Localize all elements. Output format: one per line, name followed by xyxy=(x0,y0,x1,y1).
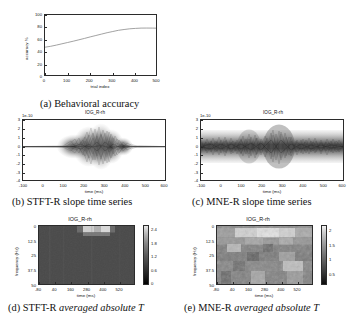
xtick-label: 40 xyxy=(230,287,235,292)
xtick-label: 300 xyxy=(108,78,115,83)
colorbar-tick-label: 1.5 xyxy=(329,243,335,248)
colorbar-tick-label: 1.8 xyxy=(151,241,157,246)
ytick-label: 37.5 xyxy=(196,268,214,273)
mner-trace-overlay xyxy=(201,120,344,181)
colorbar-tick-label: 2 xyxy=(329,228,331,233)
colorbar-mner xyxy=(321,225,327,285)
ytick-label: 50 xyxy=(196,282,214,287)
xtick-label: 400 xyxy=(131,78,138,83)
yaxis-exponent: 1e-10 xyxy=(22,113,32,118)
ytick-label: 12.5 xyxy=(196,238,214,243)
xtick-label: 0 xyxy=(43,78,45,83)
caption-b: (b) STFT-R slope time series xyxy=(12,196,132,207)
caption-c: (c) MNE-R slope time series xyxy=(192,196,312,207)
ytick-label: 1 xyxy=(186,134,198,139)
colorbar-tick-label: 1.2 xyxy=(151,254,157,259)
caption-c-text: MNE-R slope time series xyxy=(206,196,311,207)
caption-a: (a) Behavioral accuracy xyxy=(40,98,139,109)
yaxis-label: accuracy % xyxy=(24,37,29,60)
xtick-label: 400 xyxy=(121,183,128,188)
ytick-label: 0 xyxy=(18,223,36,228)
plot-title: IOG_R-rh xyxy=(208,110,338,115)
ytick-label: 80 xyxy=(28,24,42,29)
xtick-label: 600 xyxy=(339,183,346,188)
colorbar-tick-label: 1 xyxy=(329,257,331,262)
ytick-label: -1 xyxy=(8,152,20,157)
ytick-label: 0 xyxy=(28,73,42,78)
xtick-label: 200 xyxy=(86,78,93,83)
xtick-label: 280 xyxy=(83,287,90,292)
xtick-label: 160 xyxy=(245,287,252,292)
ytick-label: -2 xyxy=(186,161,198,166)
xtick-label: -100 xyxy=(19,183,27,188)
xtick-label: 300 xyxy=(101,183,108,188)
stftr-trace-overlay xyxy=(23,120,166,181)
ytick-label: 60 xyxy=(28,36,42,41)
plot-area-mner-slope xyxy=(200,119,344,181)
colorbar-tick-label: 0.5 xyxy=(329,272,335,277)
xtick-label: 300 xyxy=(279,183,286,188)
yaxis-exponent: 1e-10 xyxy=(200,113,210,118)
yaxis-label: frequency (Hz) xyxy=(192,247,197,276)
xtick-label: 400 xyxy=(299,183,306,188)
xtick-label: 500 xyxy=(320,183,327,188)
colorbar-stftr xyxy=(143,225,149,285)
caption-e: (e) MNE-R averaged absolute T xyxy=(184,302,319,313)
caption-c-prefix: (c) xyxy=(192,196,204,207)
ytick-label: 3 xyxy=(186,117,198,122)
panel-stftr-averaged-absolute-t: IOG_R-rh xyxy=(0,214,178,331)
ytick-label: 2 xyxy=(186,125,198,130)
xtick-label: 100 xyxy=(238,183,245,188)
plot-area-stftr-slope xyxy=(22,119,166,181)
caption-e-prefix: (e) xyxy=(184,302,196,313)
panel-stftr-slope-time-series: IOG_R-rh 1e-10 xyxy=(0,110,178,210)
xtick-label: 600 xyxy=(161,183,168,188)
plot-area-behavioral-accuracy xyxy=(44,14,157,76)
xtick-label: 100 xyxy=(60,183,67,188)
xtick-label: 160 xyxy=(67,287,74,292)
xtick-label: 500 xyxy=(142,183,149,188)
xtick-label: 400 xyxy=(99,287,106,292)
ytick-label: -2 xyxy=(8,161,20,166)
accuracy-curve xyxy=(45,15,157,76)
ytick-label: 20 xyxy=(28,61,42,66)
xtick-label: -80 xyxy=(35,287,41,292)
ytick-label: -3 xyxy=(8,170,20,175)
xaxis-label: time (ms) xyxy=(263,189,281,194)
ytick-label: 50 xyxy=(18,282,36,287)
xtick-label: -100 xyxy=(197,183,205,188)
caption-e-text: MNE-R xyxy=(198,302,234,313)
ytick-label: 3 xyxy=(8,117,20,122)
xtick-label: 100 xyxy=(63,78,70,83)
panel-mner-slope-time-series: IOG_R-rh 1e-10 xyxy=(178,110,356,210)
xtick-label: 0 xyxy=(41,183,43,188)
caption-e-italic: averaged absolute T xyxy=(234,302,319,313)
caption-d-text: STFT-R xyxy=(23,302,59,313)
stftr-heatmap-image xyxy=(39,226,135,285)
ytick-label: 0 xyxy=(196,223,214,228)
xaxis-label: time (ms) xyxy=(77,293,95,298)
caption-b-prefix: (b) xyxy=(12,196,24,207)
plot-title: IOG_R-rh xyxy=(20,216,140,222)
caption-d-prefix: (d) xyxy=(8,302,20,313)
colorbar-tick-label: 0.6 xyxy=(151,268,157,273)
caption-b-text: STFT-R slope time series xyxy=(27,196,133,207)
caption-a-prefix: (a) xyxy=(40,98,52,109)
panel-behavioral-accuracy: 100 80 60 40 20 0 0 100 200 300 400 500 … xyxy=(0,4,356,96)
xtick-label: 520 xyxy=(116,287,123,292)
xtick-label: 0 xyxy=(219,183,221,188)
xtick-label: 500 xyxy=(153,78,160,83)
heatmap-area-stftr xyxy=(38,225,135,285)
caption-d: (d) STFT-R averaged absolute T xyxy=(8,302,144,313)
xtick-label: 280 xyxy=(261,287,268,292)
ytick-label: 0 xyxy=(186,143,198,148)
mner-heatmap-image xyxy=(217,226,313,285)
caption-a-text: Behavioral accuracy xyxy=(54,98,139,109)
xtick-label: 200 xyxy=(258,183,265,188)
xtick-label: 200 xyxy=(80,183,87,188)
ytick-label: 37.5 xyxy=(18,268,36,273)
ytick-label: 40 xyxy=(28,49,42,54)
xtick-label: 400 xyxy=(277,287,284,292)
figure-panel-grid: 100 80 60 40 20 0 0 100 200 300 400 500 … xyxy=(0,0,356,331)
plot-title: IOG_R-rh xyxy=(198,216,318,222)
